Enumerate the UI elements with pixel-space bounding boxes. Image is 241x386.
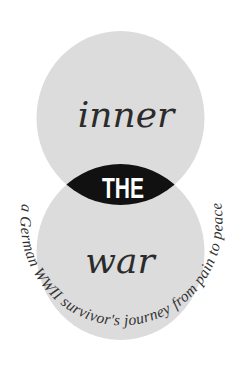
title-inner: inner bbox=[78, 94, 176, 135]
title-war: war bbox=[85, 240, 156, 281]
book-cover: inner THE war a German WWII survivor's j… bbox=[0, 0, 241, 386]
title-the: THE bbox=[102, 172, 144, 204]
